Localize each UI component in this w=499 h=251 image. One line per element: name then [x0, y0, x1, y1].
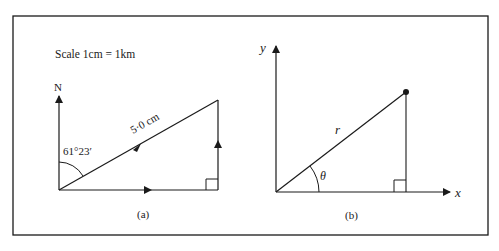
north-leg-arrow-icon	[214, 140, 222, 148]
y-axis-label: y	[258, 40, 266, 55]
hypotenuse-label: 5·0 cm	[128, 110, 161, 136]
vector-diagram: Scale 1cm = 1km N 61°23′ 5·0 cm (a) y x	[0, 0, 499, 251]
theta-label: θ	[320, 169, 326, 183]
caption-b: (b)	[345, 209, 358, 222]
right-angle-marker	[206, 179, 218, 190]
panel-b: y x θ r (b)	[258, 40, 461, 222]
north-label: N	[54, 81, 62, 93]
angle-label: 61°23′	[63, 145, 92, 157]
scale-text: Scale 1cm = 1km	[55, 48, 135, 60]
angle-arc	[59, 162, 83, 176]
radius-label: r	[335, 122, 341, 137]
right-angle-marker-b	[394, 180, 406, 192]
x-axis-label: x	[454, 185, 461, 200]
caption-a: (a)	[137, 208, 150, 221]
east-arrow-icon	[144, 186, 152, 194]
panel-a: Scale 1cm = 1km N 61°23′ 5·0 cm (a)	[54, 48, 222, 221]
radius-line	[276, 92, 406, 192]
theta-arc	[310, 166, 319, 192]
